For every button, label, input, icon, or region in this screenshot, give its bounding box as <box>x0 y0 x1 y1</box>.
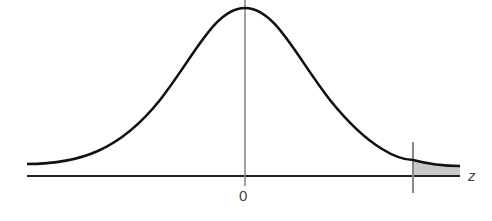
center-tick-label: 0 <box>239 187 247 204</box>
bell-curve <box>27 8 460 166</box>
axis-variable-label: z <box>468 167 476 184</box>
